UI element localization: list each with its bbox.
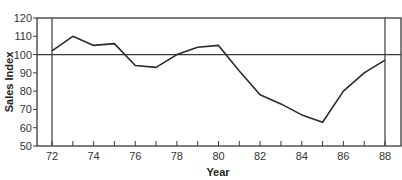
x-axis: 727476788082848688 <box>46 141 391 162</box>
x-tick-label: 80 <box>212 150 224 162</box>
y-tick-label: 50 <box>20 140 32 152</box>
sales-index-line <box>52 36 385 122</box>
x-tick-label: 78 <box>171 150 183 162</box>
x-axis-title: Year <box>206 166 230 178</box>
data-series <box>52 36 385 122</box>
plot-frame <box>37 18 401 146</box>
line-chart: 5060708090100110120 727476788082848688 S… <box>0 0 402 180</box>
y-tick-label: 70 <box>20 103 32 115</box>
y-tick-label: 100 <box>14 49 32 61</box>
y-tick-label: 80 <box>20 85 32 97</box>
x-tick-label: 74 <box>88 150 100 162</box>
reference-lines <box>37 18 401 146</box>
x-tick-label: 88 <box>379 150 391 162</box>
y-tick-label: 90 <box>20 67 32 79</box>
x-tick-label: 76 <box>129 150 141 162</box>
y-tick-label: 60 <box>20 122 32 134</box>
y-tick-label: 120 <box>14 12 32 24</box>
x-tick-label: 72 <box>46 150 58 162</box>
y-axis-title: Sales Index <box>3 51 15 112</box>
x-tick-label: 86 <box>337 150 349 162</box>
y-axis: 5060708090100110120 <box>14 12 37 152</box>
plot-border <box>37 18 401 146</box>
x-tick-label: 84 <box>296 150 308 162</box>
y-tick-label: 110 <box>14 30 32 42</box>
x-tick-label: 82 <box>254 150 266 162</box>
